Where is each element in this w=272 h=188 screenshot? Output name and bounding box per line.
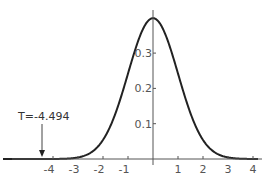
y-tick-label: 0.2	[135, 82, 153, 95]
x-tick-label: 4	[250, 163, 257, 176]
normal-distribution-chart: -4-3-2-112340.10.20.3 T=-4.494	[0, 0, 272, 188]
x-tick-label: 3	[225, 163, 232, 176]
x-tick-label: 1	[175, 163, 182, 176]
t-statistic-annotation: T=-4.494	[17, 110, 69, 157]
y-tick-label: 0.1	[135, 118, 153, 131]
x-tick-label: -2	[94, 163, 105, 176]
x-tick-label: -4	[44, 163, 55, 176]
y-tick-label: 0.3	[135, 47, 153, 60]
arrow-down-icon	[39, 150, 45, 157]
pdf-line	[3, 18, 258, 159]
annotation-label: T=-4.494	[17, 110, 69, 123]
x-tick-label: -3	[69, 163, 80, 176]
x-tick-label: 2	[200, 163, 207, 176]
x-tick-label: -1	[119, 163, 130, 176]
density-curve	[3, 18, 258, 159]
